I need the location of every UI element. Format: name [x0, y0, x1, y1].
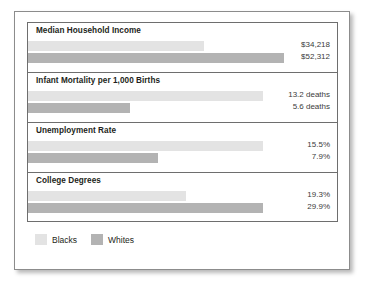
- value-label-whites: 5.6 deaths: [293, 102, 330, 111]
- group-title: Infant Mortality per 1,000 Births: [36, 76, 160, 85]
- chart-group-unemployment-rate: Unemployment Rate 15.5% 7.9%: [28, 123, 337, 173]
- bars-area: 13.2 deaths 5.6 deaths: [28, 91, 337, 121]
- legend-swatch-icon: [35, 234, 47, 245]
- figure-frame: Median Household Income $34,218 $52,312 …: [14, 11, 350, 270]
- bar-whites: [28, 153, 158, 163]
- bar-row-whites: 7.9%: [28, 153, 337, 163]
- bars-area: $34,218 $52,312: [28, 41, 337, 71]
- bar-row-blacks: 13.2 deaths: [28, 91, 337, 101]
- bar-row-whites: $52,312: [28, 53, 337, 63]
- group-title: Unemployment Rate: [36, 126, 116, 135]
- value-label-whites: 7.9%: [312, 152, 330, 161]
- value-label-blacks: 19.3%: [307, 190, 330, 199]
- bar-blacks: [28, 41, 204, 51]
- group-title: College Degrees: [36, 176, 101, 185]
- bar-blacks: [28, 191, 186, 201]
- bars-area: 19.3% 29.9%: [28, 191, 337, 221]
- legend-label: Whites: [108, 235, 134, 245]
- bar-row-whites: 5.6 deaths: [28, 103, 337, 113]
- bars-area: 15.5% 7.9%: [28, 141, 337, 171]
- bar-blacks: [28, 141, 263, 151]
- bar-whites: [28, 103, 130, 113]
- bar-row-whites: 29.9%: [28, 203, 337, 213]
- value-label-blacks: 15.5%: [307, 140, 330, 149]
- group-title: Median Household Income: [36, 26, 141, 35]
- chart-legend: Blacks Whites: [35, 234, 134, 245]
- bar-row-blacks: 19.3%: [28, 191, 337, 201]
- bar-whites: [28, 203, 263, 213]
- value-label-blacks: 13.2 deaths: [288, 90, 330, 99]
- legend-item-whites: Whites: [91, 234, 134, 245]
- legend-swatch-icon: [91, 234, 103, 245]
- chart-table: Median Household Income $34,218 $52,312 …: [27, 22, 338, 222]
- chart-group-college-degrees: College Degrees 19.3% 29.9%: [28, 173, 337, 223]
- bar-blacks: [28, 91, 263, 101]
- bar-row-blacks: $34,218: [28, 41, 337, 51]
- bar-row-blacks: 15.5%: [28, 141, 337, 151]
- chart-group-median-household-income: Median Household Income $34,218 $52,312: [28, 23, 337, 73]
- chart-group-infant-mortality: Infant Mortality per 1,000 Births 13.2 d…: [28, 73, 337, 123]
- value-label-blacks: $34,218: [301, 40, 330, 49]
- value-label-whites: 29.9%: [307, 202, 330, 211]
- legend-item-blacks: Blacks: [35, 234, 77, 245]
- legend-label: Blacks: [52, 235, 77, 245]
- value-label-whites: $52,312: [301, 52, 330, 61]
- bar-whites: [28, 53, 284, 63]
